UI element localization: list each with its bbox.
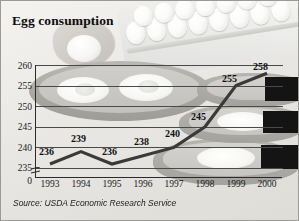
x-axis-line [35,177,282,178]
point-label-1999: 255 [222,74,237,84]
y-tick-0: 0 [27,177,32,187]
y-tick-245: 245 [18,123,32,133]
y-axis-stub [35,168,36,177]
x-tick-1999: 1999 [220,180,252,190]
egg-in-hand-photo [67,35,101,62]
point-label-1997: 240 [165,129,180,139]
point-label-1998: 245 [191,112,206,122]
y-tick-250: 250 [18,103,32,113]
y-axis-labels: 260 255 250 245 240 235 0 [1,1,32,221]
point-label-1993: 236 [39,147,54,157]
x-tick-1996: 1996 [127,180,159,190]
y-tick-255: 255 [18,82,32,92]
x-tick-1994: 1994 [65,180,97,190]
x-tick-1993: 1993 [34,180,66,190]
x-tick-1998: 1998 [189,180,221,190]
source-note: Source: USDA Economic Research Service [13,199,176,208]
y-tick-260: 260 [18,62,32,72]
point-label-1994: 239 [71,134,86,144]
x-tick-1997: 1997 [158,180,190,190]
x-tick-2000: 2000 [251,180,283,190]
point-label-2000: 258 [253,62,268,72]
chart-figure: Egg consumption 260 255 250 245 240 235 … [0,0,299,221]
gridline-235 [36,168,283,169]
x-axis-labels: 1993 1994 1995 1996 1997 1998 1999 2000 [35,180,282,194]
point-label-1995: 236 [102,147,117,157]
point-label-1996: 238 [134,137,149,147]
x-tick-1995: 1995 [96,180,128,190]
data-series-line [35,65,282,168]
y-tick-240: 240 [18,144,32,154]
